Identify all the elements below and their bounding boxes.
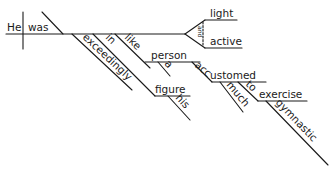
predicate-adjective-active: active [210, 35, 242, 47]
modifier-gymnastic: gymnastic [274, 96, 321, 144]
preposition-in: in [104, 31, 119, 46]
sentence-diagram: He was light active and exceedingly in f… [0, 0, 335, 169]
predicate-adjective-light: light [210, 7, 233, 19]
subject-word: He [7, 21, 21, 33]
verb-word: was [28, 21, 49, 33]
conjunction-word: and [197, 26, 204, 37]
